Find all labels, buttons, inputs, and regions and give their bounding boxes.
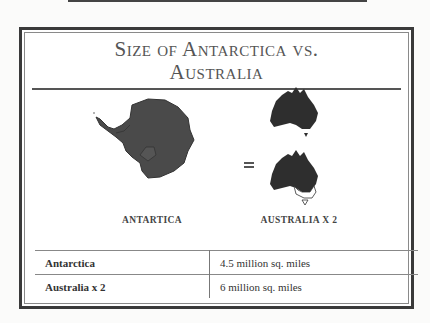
australia-caption: AUSTRALIA X 2 <box>244 215 354 225</box>
row-label: Antarctica <box>35 251 210 275</box>
equals-sign <box>244 162 254 170</box>
australia-map-icon <box>268 148 324 206</box>
title-line-2: Australia <box>22 61 411 84</box>
table-row: Antarctica 4.5 million sq. miles <box>35 251 418 275</box>
row-value: 6 million sq. miles <box>210 275 419 299</box>
antarctica-caption: ANTARTICA <box>102 215 202 225</box>
antarctica-map-icon <box>90 85 200 185</box>
title-divider <box>32 88 401 90</box>
infographic-frame: Size of Antarctica vs. Australia ANTARTI… <box>19 27 414 309</box>
comparison-table: Antarctica 4.5 million sq. miles Austral… <box>35 250 418 298</box>
top-rule <box>68 0 367 2</box>
page-title: Size of Antarctica vs. Australia <box>22 38 411 84</box>
australia-map-icon <box>268 85 324 137</box>
table-row: Australia x 2 6 million sq. miles <box>35 275 418 299</box>
row-value: 4.5 million sq. miles <box>210 251 419 275</box>
row-label: Australia x 2 <box>35 275 210 299</box>
title-line-1: Size of Antarctica vs. <box>22 38 411 61</box>
